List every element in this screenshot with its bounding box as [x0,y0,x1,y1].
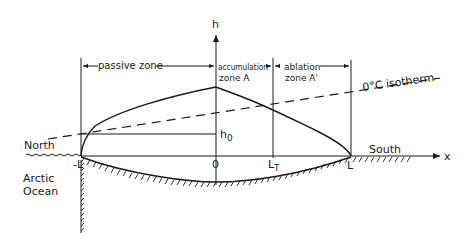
arctic-ocean-label-line1: Arctic [23,172,54,185]
accumulation-zone-name: zone A [219,73,250,83]
passive-zone-label: passive zone [98,60,163,71]
tick-label-LT: LT [268,158,279,173]
north-label: North [24,139,55,152]
reference-height-label: h0 [220,128,233,143]
arctic-ocean-label-line2: Ocean [23,185,58,198]
tick-label-origin: 0 [212,158,219,171]
tick-label-L: L [347,159,354,172]
south-ground-hatching [353,157,410,162]
ablation-zone-label: ablation [284,62,320,72]
x-axis-label: x [444,150,451,163]
ablation-zone-name: zone A' [285,73,318,83]
sea-surface-wave [26,154,81,156]
tick-label-neg-L: -L [73,158,84,171]
accumulation-zone-label: accumulation [218,62,268,72]
isotherm-label: 0°C isotherm [362,71,435,94]
ice-sheet-diagram: h x passive zone accumulation zone A abl… [0,0,474,248]
h-axis-label: h [212,18,219,31]
south-label: South [369,143,401,156]
